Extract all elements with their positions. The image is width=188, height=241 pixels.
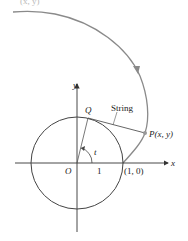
x-axis-label: x: [170, 158, 175, 168]
angle-arrow-icon: [81, 146, 85, 151]
involute-diagram: (x, y) y x Q String P(x, y) t O 1 (1, 0): [0, 0, 188, 241]
point-p-label: P(x, y): [148, 129, 173, 139]
start-point-label: (1, 0): [124, 166, 144, 176]
angle-label: t: [94, 147, 97, 157]
radius-oq: [77, 118, 88, 163]
angle-arc: [81, 148, 92, 163]
string-label: String: [111, 103, 134, 113]
string-label-leader: [113, 112, 117, 125]
involute-curve: [13, 11, 148, 163]
y-axis-label: y: [72, 80, 77, 90]
origin-label: O: [65, 166, 72, 176]
point-p: [143, 131, 147, 135]
top-partial-label: (x, y): [20, 0, 40, 6]
point-q-label: Q: [85, 105, 92, 115]
unit-tick-label: 1: [97, 166, 102, 176]
string-segment: [88, 118, 145, 133]
